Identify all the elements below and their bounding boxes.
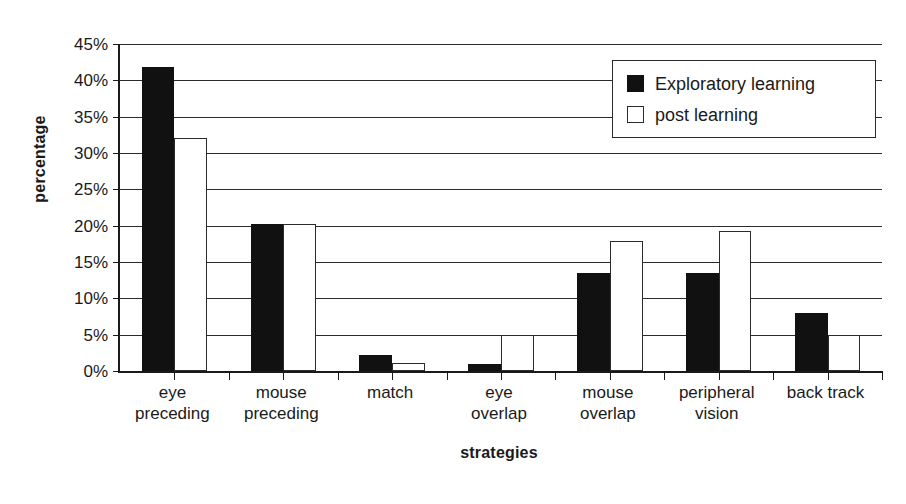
bar-post-learning [392, 363, 425, 371]
y-axis-tick-label: 5% [38, 326, 108, 343]
x-axis-center-tick-mark [610, 371, 611, 380]
x-axis-tick-label-line: back track [771, 382, 880, 403]
y-axis-tick-mark [113, 189, 120, 190]
x-axis-tick-label-line: eye [118, 382, 227, 403]
x-axis-tick-labels: eyeprecedingmouseprecedingmatcheyeoverla… [118, 382, 880, 438]
y-axis-tick-label: 10% [38, 290, 108, 307]
bar-exploratory-learning [577, 273, 610, 371]
x-axis-tick-label: match [336, 382, 445, 403]
x-axis-tick-label-line: peripheral [662, 382, 771, 403]
hollow-square-icon [627, 106, 644, 123]
legend-label: post learning [655, 106, 758, 124]
y-axis-tick-mark [113, 117, 120, 118]
x-axis-tick-label-line: overlap [553, 403, 662, 424]
bar-group [447, 44, 556, 371]
x-axis-tick-label-line: mouse [553, 382, 662, 403]
legend-entry: Exploratory learning [627, 68, 875, 99]
x-axis-tick-label: eyepreceding [118, 382, 227, 424]
x-axis-tick-label-line: preceding [118, 403, 227, 424]
x-axis-tick-label-line: preceding [227, 403, 336, 424]
bar-chart: percentage 0%5%10%15%20%25%30%35%40%45% … [0, 0, 906, 504]
bar-post-learning [283, 224, 316, 372]
y-axis-tick-label: 25% [38, 181, 108, 198]
y-axis-tick-label: 35% [38, 108, 108, 125]
chart-legend: Exploratory learningpost learning [612, 60, 876, 138]
bar-group [229, 44, 338, 371]
filled-square-icon [627, 75, 644, 92]
bar-post-learning [719, 231, 752, 371]
x-axis-tick-mark [882, 371, 883, 380]
bar-group [338, 44, 447, 371]
y-axis-tick-label: 15% [38, 254, 108, 271]
x-axis-tick-label-line: mouse [227, 382, 336, 403]
bar-post-learning [828, 335, 861, 371]
x-axis-tick-label-line: match [336, 382, 445, 403]
bar-group [120, 44, 229, 371]
y-axis-tick-labels: 0%5%10%15%20%25%30%35%40%45% [38, 44, 108, 371]
x-axis-tick-mark [338, 371, 339, 380]
y-axis-tick-label: 45% [38, 36, 108, 53]
x-axis-tick-mark [229, 371, 230, 380]
bar-exploratory-learning [468, 364, 501, 371]
y-axis-tick-mark [113, 80, 120, 81]
y-axis-tick-label: 30% [38, 145, 108, 162]
x-axis-tick-mark [555, 371, 556, 380]
bar-post-learning [174, 138, 207, 371]
x-axis-center-tick-mark [501, 371, 502, 380]
y-axis-tick-mark [113, 262, 120, 263]
x-axis-tick-label-line: overlap [445, 403, 554, 424]
x-axis-center-tick-mark [828, 371, 829, 380]
y-axis-tick-label: 20% [38, 217, 108, 234]
bar-exploratory-learning [686, 273, 719, 371]
x-axis-tick-mark [447, 371, 448, 380]
legend-label: Exploratory learning [655, 75, 815, 93]
x-axis-center-tick-mark [174, 371, 175, 380]
x-axis-tick-label: mousepreceding [227, 382, 336, 424]
y-axis-tick-mark [113, 371, 120, 372]
y-axis-tick-mark [113, 226, 120, 227]
x-axis-tick-label: peripheralvision [662, 382, 771, 424]
x-axis-tick-mark [773, 371, 774, 380]
x-axis-center-tick-mark [283, 371, 284, 380]
x-axis-tick-label-line: vision [662, 403, 771, 424]
x-axis-title: strategies [118, 444, 880, 462]
x-axis-tick-label: mouseoverlap [553, 382, 662, 424]
bar-post-learning [501, 335, 534, 371]
y-axis-tick-label: 0% [38, 363, 108, 380]
y-axis-tick-label: 40% [38, 72, 108, 89]
y-axis-tick-mark [113, 44, 120, 45]
y-axis-tick-mark [113, 153, 120, 154]
y-axis-tick-mark [113, 335, 120, 336]
bar-exploratory-learning [795, 313, 828, 371]
bar-exploratory-learning [142, 67, 175, 371]
y-axis-tick-mark [113, 298, 120, 299]
bar-exploratory-learning [359, 355, 392, 371]
legend-entry: post learning [627, 99, 875, 130]
bar-post-learning [610, 241, 643, 371]
bar-exploratory-learning [251, 224, 284, 372]
x-axis-tick-mark [664, 371, 665, 380]
x-axis-tick-label: back track [771, 382, 880, 403]
x-axis-tick-label: eyeoverlap [445, 382, 554, 424]
x-axis-center-tick-mark [719, 371, 720, 380]
x-axis-tick-label-line: eye [445, 382, 554, 403]
x-axis-center-tick-mark [392, 371, 393, 380]
